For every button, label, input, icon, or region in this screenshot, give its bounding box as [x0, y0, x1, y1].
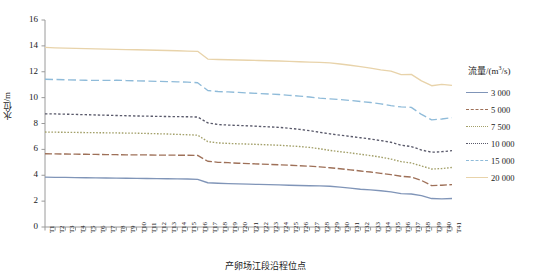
y-tick-label: 14 — [16, 40, 38, 50]
x-tick-label: T19 — [231, 222, 239, 233]
x-tick-label: T13 — [170, 222, 178, 233]
x-tick-label: T3 — [68, 226, 76, 233]
x-tick-label: T25 — [292, 222, 300, 233]
x-tick-label: T34 — [384, 222, 392, 233]
x-tick-label: T11 — [150, 223, 158, 233]
legend-label: 3 000 — [488, 88, 510, 98]
x-tick-label: T22 — [262, 222, 270, 233]
legend-title: 流量/(m3/s) — [468, 64, 534, 77]
chart-legend: 流量/(m3/s) 3 0005 0007 50010 00015 00020 … — [466, 64, 534, 187]
legend-label: 15 000 — [488, 156, 514, 166]
x-tick-label: T6 — [99, 226, 107, 233]
legend-swatch-icon — [466, 122, 488, 132]
x-tick-label: T33 — [374, 222, 382, 233]
x-tick-label: T38 — [424, 222, 432, 233]
legend-entry[interactable]: 20 000 — [466, 170, 534, 186]
legend-entry[interactable]: 3 000 — [466, 85, 534, 101]
legend-entries: 3 0005 0007 50010 00015 00020 000 — [466, 85, 534, 186]
x-tick-label: T26 — [302, 222, 310, 233]
series-line-15000 — [45, 79, 452, 120]
x-tick-label: T41 — [455, 222, 463, 233]
legend-swatch-icon — [466, 139, 488, 149]
x-tick-label: T2 — [58, 226, 66, 233]
x-tick-label: T35 — [394, 222, 402, 233]
legend-title-main: 流量/(m — [468, 66, 499, 76]
y-tick-label: 16 — [16, 14, 38, 24]
x-tick-label: T21 — [252, 222, 260, 233]
x-tick-label: T24 — [282, 222, 290, 233]
y-tick-label: 4 — [16, 169, 38, 179]
legend-entry[interactable]: 7 500 — [466, 119, 534, 135]
x-tick-label: T37 — [414, 222, 422, 233]
chart-figure: 水位/m 产卵场江段沿程位点 0246810121416 T1T2T3T4T5T… — [0, 0, 534, 278]
x-tick-label: T4 — [79, 226, 87, 233]
x-tick-label: T10 — [140, 222, 148, 233]
x-tick-label: T23 — [272, 222, 280, 233]
x-tick-label: T30 — [343, 222, 351, 233]
y-tick-label: 12 — [16, 66, 38, 76]
x-tick-label: T15 — [190, 222, 198, 233]
x-tick-label: T40 — [445, 222, 453, 233]
x-tick-label: T17 — [211, 222, 219, 233]
legend-title-tail: /s) — [502, 66, 511, 76]
legend-entry[interactable]: 15 000 — [466, 153, 534, 169]
x-tick-label: T29 — [333, 222, 341, 233]
x-tick-label: T36 — [404, 222, 412, 233]
legend-label: 7 500 — [488, 122, 510, 132]
series-line-3000 — [45, 177, 452, 199]
x-tick-label: T14 — [180, 222, 188, 233]
legend-entry[interactable]: 5 000 — [466, 102, 534, 118]
x-tick-label: T39 — [435, 222, 443, 233]
legend-label: 20 000 — [488, 173, 514, 183]
y-tick-label: 2 — [16, 195, 38, 205]
y-tick-label: 8 — [16, 118, 38, 128]
y-tick-label: 0 — [16, 221, 38, 231]
x-tick-label: T8 — [119, 226, 127, 233]
x-tick-label: T32 — [363, 222, 371, 233]
x-tick-label: T27 — [313, 222, 321, 233]
x-tick-label: T31 — [353, 222, 361, 233]
x-tick-label: T12 — [160, 222, 168, 233]
chart-plot-area — [0, 0, 534, 278]
legend-swatch-icon — [466, 88, 488, 98]
x-tick-label: T20 — [241, 222, 249, 233]
legend-swatch-icon — [466, 105, 488, 115]
legend-swatch-icon — [466, 173, 488, 183]
legend-swatch-icon — [466, 156, 488, 166]
x-tick-label: T5 — [89, 226, 97, 233]
legend-entry[interactable]: 10 000 — [466, 136, 534, 152]
legend-label: 5 000 — [488, 105, 510, 115]
x-tick-label: T7 — [109, 226, 117, 233]
x-tick-label: T1 — [48, 226, 56, 233]
x-tick-label: T16 — [201, 222, 209, 233]
y-tick-label: 6 — [16, 143, 38, 153]
y-tick-label: 10 — [16, 92, 38, 102]
x-tick-label: T18 — [221, 222, 229, 233]
x-tick-label: T9 — [129, 226, 137, 233]
legend-label: 10 000 — [488, 139, 514, 149]
x-tick-label: T28 — [323, 222, 331, 233]
x-axis-title: 产卵场江段沿程位点 — [120, 259, 410, 272]
